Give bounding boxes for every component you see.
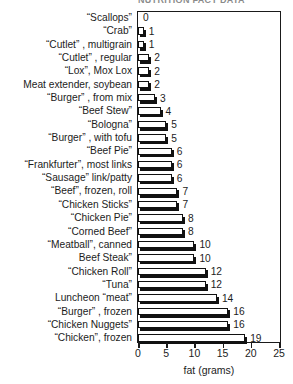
category-label: “Lox”, Mox Lox	[0, 64, 135, 77]
bar-value-label: 16	[233, 318, 244, 331]
bar[interactable]	[138, 308, 228, 315]
bar-row: 16	[138, 306, 280, 319]
bar-row: 10	[138, 239, 280, 252]
bar-row: 12	[138, 266, 280, 279]
bar-row: 2	[138, 52, 280, 65]
bar-value-label: 5	[171, 118, 177, 131]
bar-value-label: 7	[182, 198, 188, 211]
chart-title-cropped: NUTRITION FACT DATA	[138, 0, 293, 3]
bar[interactable]	[138, 148, 172, 155]
bar[interactable]	[138, 121, 166, 128]
bar[interactable]	[138, 214, 183, 221]
bar[interactable]	[138, 107, 161, 114]
x-axis-tick-label: 15	[217, 347, 229, 360]
category-label: Beef Steak”	[0, 251, 135, 264]
bar[interactable]	[138, 294, 217, 301]
bar-value-label: 1	[149, 25, 155, 38]
bar[interactable]	[138, 54, 149, 61]
category-label: “Chicken”, frozen	[0, 331, 135, 344]
bar[interactable]	[138, 188, 177, 195]
bar-value-label: 0	[143, 11, 149, 24]
category-label: “Burger” , with tofu	[0, 131, 135, 144]
category-label: “Chicken Roll”	[0, 265, 135, 278]
plot-area: 011222345566677881010121214161619	[137, 11, 281, 343]
category-label-column: “Scallops”“Crab”“Cutlet” , multigrain“Cu…	[0, 11, 135, 345]
x-axis-title: fat (grams)	[137, 364, 281, 376]
bar-row: 8	[138, 226, 280, 239]
bar[interactable]	[138, 41, 144, 48]
bar-row: 5	[138, 119, 280, 132]
category-label: “Beef Stew”	[0, 104, 135, 117]
category-label: “Chicken Pie”	[0, 211, 135, 224]
bar-row: 4	[138, 105, 280, 118]
bar-row: 7	[138, 199, 280, 212]
bar-row: 2	[138, 79, 280, 92]
bar-value-label: 10	[199, 238, 210, 251]
bar[interactable]	[138, 228, 183, 235]
bar-row: 0	[138, 12, 280, 25]
bar[interactable]	[138, 201, 177, 208]
category-label: “Scallops”	[0, 11, 135, 24]
bar-value-label: 7	[182, 185, 188, 198]
bar-row: 7	[138, 186, 280, 199]
bar-row: 1	[138, 25, 280, 38]
category-label: “Corned Beef”	[0, 225, 135, 238]
bar-value-label: 8	[188, 212, 194, 225]
bar-value-label: 2	[154, 78, 160, 91]
x-axis-tick-label: 25	[273, 347, 285, 360]
x-axis-tick-label: 10	[189, 347, 201, 360]
category-label: “Chicken Sticks”	[0, 198, 135, 211]
bar[interactable]	[138, 81, 149, 88]
category-label: “Tuna”	[0, 278, 135, 291]
x-axis-tick-label: 20	[245, 347, 257, 360]
chart-root: NUTRITION FACT DATA “Scallops”“Crab”“Cut…	[0, 0, 293, 384]
bar-row: 6	[138, 172, 280, 185]
bar-row: 6	[138, 159, 280, 172]
bar[interactable]	[138, 161, 172, 168]
category-label: Meat extender, soybean	[0, 78, 135, 91]
bar[interactable]	[138, 27, 144, 34]
bar[interactable]	[138, 241, 194, 248]
chart-title-text: NUTRITION FACT DATA	[138, 0, 293, 3]
bar-row: 1	[138, 39, 280, 52]
bar[interactable]	[138, 334, 245, 341]
bar-value-label: 4	[166, 105, 172, 118]
category-label: “Cutlet” , regular	[0, 51, 135, 64]
bar-row: 5	[138, 132, 280, 145]
bar-value-label: 12	[211, 278, 222, 291]
bar-value-label: 3	[160, 92, 166, 105]
bar[interactable]	[138, 67, 149, 74]
bar[interactable]	[138, 268, 206, 275]
bar[interactable]	[138, 254, 194, 261]
bar-row: 6	[138, 146, 280, 159]
x-axis-tick-labels: 0510152025	[137, 347, 281, 361]
bar-value-label: 2	[154, 65, 160, 78]
category-label: “Bologna”	[0, 118, 135, 131]
bar-value-label: 6	[177, 158, 183, 171]
bar-row: 16	[138, 319, 280, 332]
category-label: “Chicken Nuggets”	[0, 318, 135, 331]
bar-row: 14	[138, 292, 280, 305]
category-label: “Frankfurter”, most links	[0, 158, 135, 171]
category-label: “Sausage” link/patty	[0, 171, 135, 184]
bar-value-label: 6	[177, 145, 183, 158]
category-label: “Beef Pie”	[0, 144, 135, 157]
bar[interactable]	[138, 134, 166, 141]
bar-value-label: 6	[177, 172, 183, 185]
category-label: “Meatball”, canned	[0, 238, 135, 251]
bar-value-label: 5	[171, 132, 177, 145]
bar-row: 12	[138, 279, 280, 292]
bar[interactable]	[138, 321, 228, 328]
bar-value-label: 1	[149, 38, 155, 51]
bar-value-label: 16	[233, 305, 244, 318]
bar[interactable]	[138, 94, 155, 101]
bar-value-label: 14	[222, 292, 233, 305]
bar[interactable]	[138, 281, 206, 288]
category-label: “Cutlet” , multigrain	[0, 38, 135, 51]
x-axis-tick-label: 0	[135, 347, 141, 360]
bar-value-label: 10	[199, 252, 210, 265]
x-axis-tick-label: 5	[163, 347, 169, 360]
category-label: Luncheon “meat”	[0, 291, 135, 304]
bar[interactable]	[138, 174, 172, 181]
bar-row: 3	[138, 92, 280, 105]
